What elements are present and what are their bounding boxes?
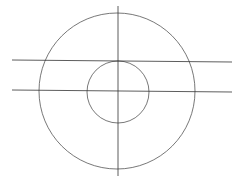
diagram-canvas	[0, 0, 238, 188]
horizontal-line-lower	[12, 90, 232, 92]
